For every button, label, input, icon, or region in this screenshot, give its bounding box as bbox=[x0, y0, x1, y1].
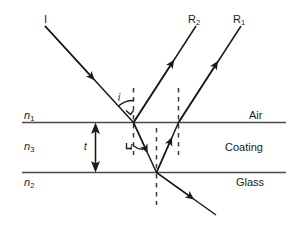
thickness-indicator bbox=[91, 123, 100, 173]
refracted-ray-arrow-segment bbox=[134, 123, 147, 150]
refractive-index-coating-label: n3 bbox=[24, 141, 34, 153]
optics-diagram: I R2 R1 n1 n3 n2 Air Coating Glass i r t bbox=[0, 0, 292, 230]
angle-of-incidence-label: i bbox=[118, 93, 120, 103]
medium-label-coating: Coating bbox=[225, 142, 263, 153]
normal-lines bbox=[134, 88, 179, 205]
reflected-ray-1-label-text: R bbox=[233, 13, 241, 25]
refractive-index-coating-subscript: 3 bbox=[30, 145, 34, 154]
coating-thickness-label: t bbox=[84, 142, 87, 152]
reflected-ray-1-label: R1 bbox=[233, 14, 245, 26]
reflected-ray-2-arrow-segment bbox=[134, 63, 173, 123]
angle-of-incidence-arc bbox=[119, 100, 134, 106]
incident-ray-label: I bbox=[44, 14, 47, 25]
medium-label-glass: Glass bbox=[236, 177, 264, 188]
refractive-index-glass-subscript: 2 bbox=[30, 181, 34, 190]
incident-ray-arrow-segment bbox=[45, 26, 92, 77]
right-angle-mark-top bbox=[126, 111, 134, 115]
reflected-ray-1-arrow-segment bbox=[179, 64, 217, 122]
angle-of-refraction-label: r bbox=[130, 142, 133, 152]
angle-of-refraction-arc bbox=[134, 146, 144, 150]
refractive-index-glass-label: n2 bbox=[24, 177, 34, 189]
reflected-ray-2-label-text: R bbox=[188, 13, 196, 25]
refractive-index-air-subscript: 1 bbox=[30, 114, 34, 123]
transmitted-ray-arrow-segment bbox=[157, 173, 192, 198]
ray-paths bbox=[45, 26, 241, 215]
internally-reflected-ray-arrow-segment bbox=[157, 141, 171, 173]
reflected-ray-1-label-sub: 1 bbox=[241, 18, 245, 27]
reflected-ray-2-label: R2 bbox=[188, 14, 200, 26]
reflected-ray-2-label-sub: 2 bbox=[196, 18, 200, 27]
medium-label-air: Air bbox=[249, 110, 262, 121]
refractive-index-air-label: n1 bbox=[24, 110, 34, 122]
